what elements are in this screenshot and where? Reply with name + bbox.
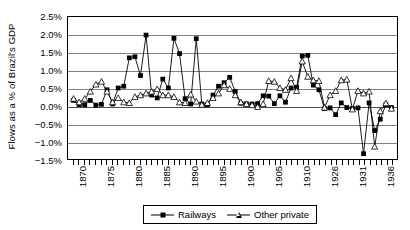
x-tick-mark [376,160,377,165]
y-tick-label: 2.5% [40,11,62,22]
x-tick-label: 1910 [301,166,312,187]
x-tick-mark [185,160,186,165]
x-tick-mark [129,160,130,165]
x-tick-mark [207,160,208,165]
y-tick-label: 1.5% [40,47,62,58]
y-tick-label: −1.5% [35,155,62,166]
data-point-marker [82,102,87,107]
x-tick-mark [297,160,298,165]
data-point-marker [356,106,361,111]
data-point-marker [305,53,310,58]
x-tick-mark [84,160,85,165]
data-point-marker [299,58,305,64]
y-tick-label: 2.0% [40,29,62,40]
data-point-marker [76,99,82,105]
data-point-marker [339,101,344,106]
plot-area [67,16,398,160]
x-tick-mark [308,160,309,165]
x-tick-mark [353,160,354,165]
x-tick-mark [364,160,365,165]
data-point-marker [121,99,127,105]
series-railways [71,33,394,156]
x-tick-mark [241,160,242,165]
x-tick-mark [359,160,360,165]
series-other-private [70,58,394,149]
x-tick-label: 1875 [105,166,116,187]
data-point-marker [172,36,177,41]
x-tick-mark [146,160,147,165]
x-tick-mark [252,160,253,165]
x-tick-mark [157,160,158,165]
legend-label-railways: Railways [178,209,216,220]
x-tick-mark [314,160,315,165]
x-tick-mark [325,160,326,165]
x-tick-mark [162,160,163,165]
x-axis-tick-labels: 1870187518801885189018951900190519101926… [67,166,398,202]
data-point-marker [305,74,311,80]
data-point-marker [333,112,338,117]
data-point-marker [227,75,232,80]
data-point-marker [188,91,194,97]
data-point-marker [327,92,333,98]
data-point-marker [99,102,104,107]
x-tick-mark [263,160,264,165]
x-tick-mark [348,160,349,165]
data-point-marker [194,36,199,41]
x-tick-mark [140,160,141,165]
data-point-marker [88,98,93,103]
data-point-marker [310,77,316,83]
x-tick-mark [280,160,281,165]
data-point-marker [272,101,277,106]
x-tick-label: 1895 [217,166,228,187]
x-tick-mark [336,160,337,165]
y-axis-title-text: Flows as a % of Brazil's GDP [6,23,17,149]
other-private-marker-icon [227,210,250,220]
data-point-marker [154,86,160,92]
x-tick-mark [230,160,231,165]
data-point-marker [115,95,121,101]
x-tick-mark [247,160,248,165]
y-axis-title: Flows as a % of Brazil's GDP [0,0,22,172]
x-tick-mark [174,160,175,165]
data-point-marker [144,33,149,38]
x-tick-mark [117,160,118,165]
legend-label-other-private: Other private [254,209,309,220]
chart-figure: Flows as a % of Brazil's GDP 2.5%2.0%1.5… [0,0,410,230]
data-point-marker [283,100,288,105]
data-point-marker [138,73,143,78]
data-point-marker [333,88,339,94]
y-axis-tick-labels: 2.5%2.0%1.5%1.0%0.5%0.0%−0.5%−1.0%−1.5% [22,0,65,172]
data-point-marker [361,151,366,156]
data-series-layer [68,17,397,159]
x-tick-mark [179,160,180,165]
x-tick-mark [196,160,197,165]
data-point-marker [133,54,138,59]
x-tick-label: 1905 [273,166,284,187]
y-tick-label: 0.5% [40,83,62,94]
data-point-marker [288,75,294,81]
y-tick-label: −0.5% [35,119,62,130]
data-point-marker [177,51,182,56]
x-tick-label: 1890 [189,166,200,187]
data-point-marker [188,102,193,107]
x-tick-mark [112,160,113,165]
data-point-marker [260,101,266,107]
x-tick-mark [286,160,287,165]
data-point-marker [160,77,165,82]
data-point-marker [366,88,372,94]
legend-item-railways: Railways [151,209,216,220]
data-point-marker [149,88,155,94]
data-point-marker [328,106,333,111]
x-tick-mark [381,160,382,165]
y-tick-label: −1.0% [35,137,62,148]
x-tick-mark [224,160,225,165]
x-tick-label: 1885 [161,166,172,187]
data-point-marker [155,96,160,101]
data-point-marker [116,86,121,91]
y-tick-label: 0.0% [40,101,62,112]
x-tick-label: 1900 [245,166,256,187]
x-tick-mark [275,160,276,165]
data-point-marker [98,79,104,85]
x-tick-label: 1926 [329,166,340,187]
x-tick-mark [303,160,304,165]
